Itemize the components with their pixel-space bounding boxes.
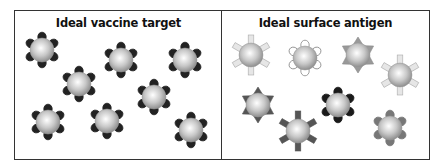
virus-particle-round-spikes-icon (320, 87, 355, 123)
virus-particle-round-spikes-icon (24, 32, 59, 68)
virus-particle-round-spikes-icon (61, 66, 96, 102)
particle-scene (0, 0, 438, 168)
virus-particle-round-spikes-icon (136, 79, 171, 115)
virus-particle-round-spikes-icon (287, 40, 322, 76)
virus-particle-round-spikes-icon (103, 42, 138, 78)
virus-particle-tri-spikes-icon (342, 37, 373, 73)
virus-particle-rect-spikes-icon (279, 111, 316, 151)
virus-particle-round-spikes-icon (173, 112, 208, 148)
virus-particle-round-spikes-icon (30, 104, 65, 140)
virus-particle-rect-spikes-icon (381, 55, 418, 95)
virus-particle-round-spikes-icon (89, 103, 124, 139)
virus-particle-round-spikes-icon (167, 42, 202, 78)
virus-particle-tri-spikes-icon (242, 87, 273, 123)
virus-particle-rect-spikes-icon (232, 35, 269, 75)
virus-particle-round-spikes-icon (372, 110, 407, 146)
